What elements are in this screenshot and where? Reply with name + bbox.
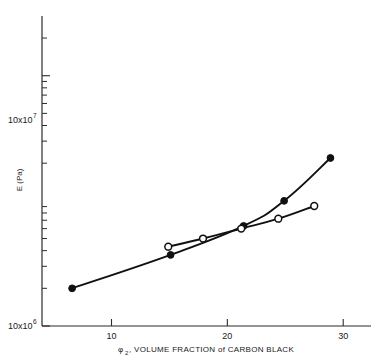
x-tick-label: 30: [338, 331, 348, 341]
x-tick-label: 20: [222, 331, 232, 341]
y-tick-label-lower-exponent: 6: [33, 318, 37, 325]
data-point-open-circles-3: [275, 215, 282, 222]
y-tick-label-lower-mantissa: 10x10: [8, 321, 33, 331]
y-tick-label-upper-exponent: 7: [33, 112, 37, 119]
log-linear-scatter-chart: 10x10 7 10x10 6 102030 φ 2 , VOLUME FRAC…: [0, 0, 374, 363]
x-tick-label: 10: [106, 331, 116, 341]
series-open-circles: [165, 203, 318, 251]
y-tick-label-upper-mantissa: 10x10: [8, 115, 33, 125]
data-point-open-circles-0: [165, 243, 172, 250]
y-axis-ticks: [42, 38, 50, 326]
series-line-filled-circles: [72, 158, 330, 288]
data-point-filled-circles-3: [281, 197, 288, 204]
data-point-filled-circles-0: [69, 285, 76, 292]
data-point-open-circles-2: [238, 225, 245, 232]
y-axis-title: E (Pa): [15, 168, 24, 191]
data-point-filled-circles-1: [167, 251, 174, 258]
x-axis-title-symbol: φ: [118, 345, 124, 354]
x-tick-labels: 102030: [106, 331, 348, 341]
axes-frame: [42, 16, 371, 326]
x-axis-title: φ 2 , VOLUME FRACTION of CARBON BLACK: [118, 345, 294, 356]
series-filled-circles: [69, 155, 334, 292]
figure-container: 10x10 7 10x10 6 102030 φ 2 , VOLUME FRAC…: [0, 0, 374, 363]
data-series-group: [69, 155, 334, 292]
data-point-open-circles-1: [200, 235, 207, 242]
x-axis-ticks: [112, 319, 344, 326]
data-point-open-circles-4: [311, 203, 318, 210]
y-tick-label-lower: 10x10 6: [8, 318, 37, 331]
y-tick-label-upper: 10x10 7: [8, 112, 37, 125]
data-point-filled-circles-4: [327, 155, 334, 162]
x-axis-title-text: , VOLUME FRACTION of CARBON BLACK: [129, 345, 294, 354]
